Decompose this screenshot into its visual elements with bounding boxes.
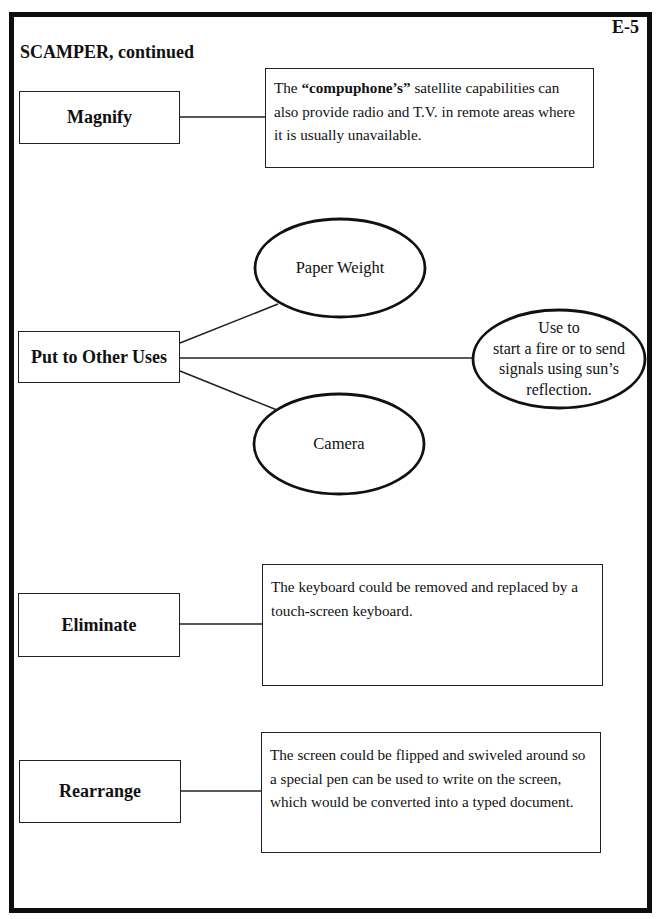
magnify-label: Magnify: [67, 107, 132, 128]
eliminate-label-box: Eliminate: [18, 593, 180, 657]
use-fire-signals: Use to start a fire or to send signals u…: [473, 310, 645, 408]
compuphone-term: “compuphone’s”: [301, 79, 410, 96]
use-fire-line-3: signals using sun’s: [493, 359, 625, 380]
use-paper-weight: Paper Weight: [255, 219, 425, 317]
put-to-other-uses-label-box: Put to Other Uses: [18, 331, 180, 383]
use-fire-line-4: reflection.: [493, 380, 625, 401]
rearrange-label: Rearrange: [59, 781, 141, 802]
use-camera-text: Camera: [313, 434, 364, 454]
eliminate-label: Eliminate: [62, 615, 137, 636]
use-paper-weight-text: Paper Weight: [296, 258, 385, 278]
magnify-label-box: Magnify: [19, 91, 180, 144]
rearrange-description-box: The screen could be flipped and swiveled…: [261, 732, 601, 853]
eliminate-description-box: The keyboard could be removed and replac…: [262, 564, 603, 686]
put-to-other-uses-label: Put to Other Uses: [31, 347, 167, 368]
use-camera: Camera: [254, 394, 424, 494]
rearrange-label-box: Rearrange: [19, 760, 181, 823]
rearrange-description: The screen could be flipped and swiveled…: [270, 746, 585, 810]
use-fire-line-1: Use to: [493, 318, 625, 339]
use-fire-line-2: start a fire or to send: [493, 339, 625, 360]
eliminate-description: The keyboard could be removed and replac…: [271, 578, 578, 619]
magnify-description-box: The “compuphone’s” satellite capabilitie…: [265, 68, 594, 168]
magnify-desc-prefix: The: [274, 79, 301, 96]
